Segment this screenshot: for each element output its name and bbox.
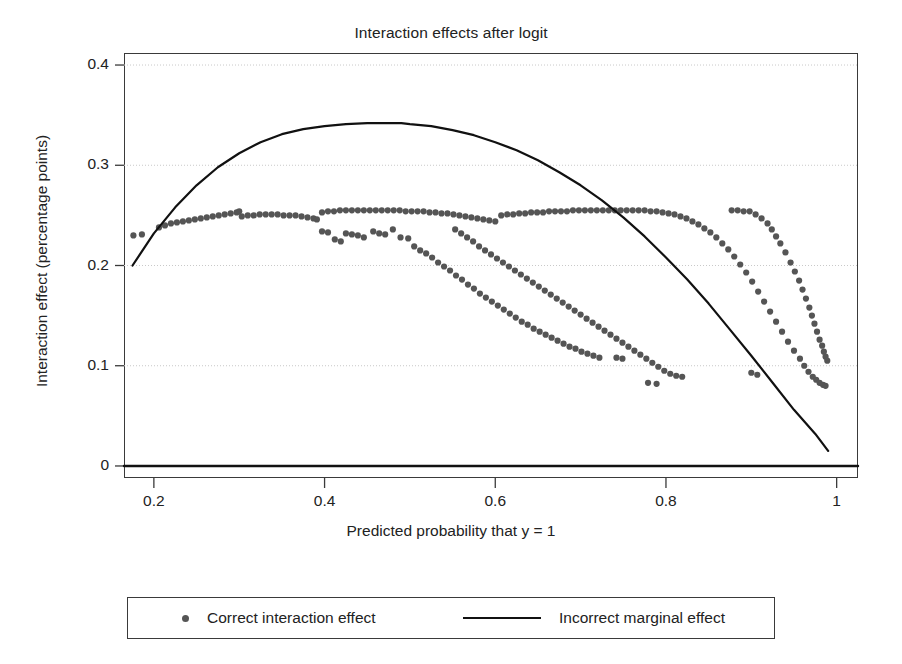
x-tick-label: 0.4 [295, 492, 355, 510]
y-tick-label: 0 [57, 456, 109, 474]
plot-area [124, 53, 858, 478]
legend-line-icon [463, 617, 541, 619]
x-tick-label: 1 [807, 492, 867, 510]
legend-item-correct-interaction-effect: Correct interaction effect [182, 598, 376, 638]
legend-label: Incorrect marginal effect [559, 609, 725, 627]
x-tick-label: 0.8 [636, 492, 696, 510]
y-tick-label: 0.1 [57, 356, 109, 374]
x-axis-title: Predicted probability that y = 1 [0, 522, 902, 540]
x-tick-label: 0.2 [124, 492, 184, 510]
chart-figure: Interaction effects after logit Interact… [0, 0, 902, 664]
chart-title: Interaction effects after logit [0, 24, 902, 42]
legend-dot-icon [182, 615, 189, 622]
y-tick-label: 0.2 [57, 256, 109, 274]
y-tick-label: 0.3 [57, 155, 109, 173]
chart-legend: Correct interaction effect Incorrect mar… [127, 597, 775, 639]
y-axis-title: Interaction effect (percentage points) [33, 51, 51, 471]
x-tick-label: 0.6 [465, 492, 525, 510]
legend-item-incorrect-marginal-effect: Incorrect marginal effect [463, 598, 725, 638]
legend-label: Correct interaction effect [207, 609, 376, 627]
y-tick-label: 0.4 [57, 55, 109, 73]
